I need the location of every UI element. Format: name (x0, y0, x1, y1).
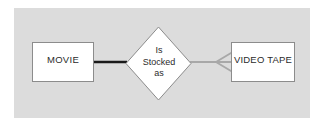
entity-movie-shape[interactable] (33, 43, 94, 82)
er-diagram-root: MOVIE VIDEO TAPE Is Stocked as (0, 0, 323, 127)
diagram-shapes-layer (0, 0, 323, 127)
crows-foot-icon (216, 53, 231, 71)
relationship-diamond-shape[interactable] (126, 27, 191, 100)
entity-video-tape-shape[interactable] (232, 43, 295, 82)
